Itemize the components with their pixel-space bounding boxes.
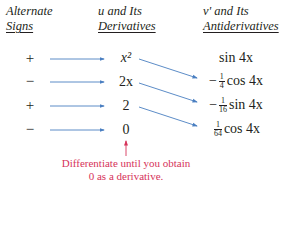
derivative-row1: x² xyxy=(106,50,146,66)
antiderivative-row2-fraction: 14 xyxy=(219,73,225,90)
sign-row3: + xyxy=(20,97,40,114)
antiderivative-row4: 164cos 4x xyxy=(196,121,276,138)
antiderivative-row4-fraction: 164 xyxy=(214,121,222,138)
fraction-denominator: 64 xyxy=(214,130,222,138)
arrow-diag-2 xyxy=(139,83,197,102)
differentiate-note: Differentiate until you obtain 0 as a de… xyxy=(36,157,216,183)
sign-row2: − xyxy=(20,73,40,90)
arrow-diag-3 xyxy=(139,107,197,126)
fraction-denominator: 4 xyxy=(219,82,225,90)
derivative-row3: 2 xyxy=(106,98,146,114)
fraction-denominator: 16 xyxy=(219,106,227,114)
antiderivative-row2-sign: − xyxy=(209,73,217,88)
note-line1: Differentiate until you obtain xyxy=(36,157,216,170)
antiderivative-row3-fraction: 116 xyxy=(219,97,227,114)
antiderivative-row1: sin 4x xyxy=(196,50,276,66)
sign-row1: + xyxy=(20,50,40,67)
derivative-row2: 2x xyxy=(106,74,146,90)
antiderivative-row2: −14cos 4x xyxy=(196,73,276,90)
derivative-row2-text: 2x xyxy=(119,74,133,89)
antiderivative-row1-expr: sin 4x xyxy=(219,50,253,65)
note-line2: 0 as a derivative. xyxy=(36,170,216,183)
sign-row4: − xyxy=(20,121,40,138)
derivative-row4: 0 xyxy=(106,122,146,138)
antiderivative-row2-expr: cos 4x xyxy=(227,73,263,88)
antiderivative-row3: −116sin 4x xyxy=(196,97,276,114)
antiderivative-row3-sign: − xyxy=(209,97,217,112)
antiderivative-row4-expr: cos 4x xyxy=(224,121,260,136)
antiderivative-row3-expr: sin 4x xyxy=(229,97,263,112)
arrow-diag-1 xyxy=(139,59,197,78)
